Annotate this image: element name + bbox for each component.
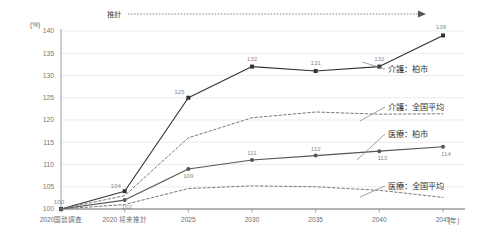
value-label-s1-p4: 112 [311,145,321,152]
y-tick-label-135: 135 [43,50,55,57]
y-tick-label-120: 120 [43,116,55,123]
y-tick-label-110: 110 [43,161,54,168]
y-tick-labels-group: 100105110115120125130135140 [43,27,55,212]
marker-s0-p3 [250,65,254,69]
x-tick-label-1: 2020 将来推計 [102,215,147,224]
y-tick-label-115: 115 [43,139,54,146]
marker-s0-p1 [123,189,127,193]
x-tick-label-3: 2030 [245,216,260,223]
value-label-s0-p0: 100 [54,198,65,205]
y-axis-unit-label: (%) [30,21,40,29]
chart-canvas: 100105110115120125130135140 2020国勢調査2020… [0,0,477,237]
value-label-s0-p3: 132 [247,55,258,62]
marker-s0-p2 [186,96,190,100]
y-tick-label-105: 105 [43,183,55,190]
marker-s1-p3 [250,158,254,162]
value-label-s1-p6: 114 [441,150,451,157]
value-label-s1-p2: 109 [183,172,194,179]
marker-s0-p6 [441,33,445,37]
value-label-s1-p1: 102 [122,203,133,210]
value-label-s0-p5: 132 [374,55,385,62]
marker-s1-p6 [441,145,445,149]
value-label-s0-p1: 104 [111,182,122,189]
series-label-0: 介護：柏市 [388,64,428,74]
marker-s1-p2 [186,167,190,171]
series-label-3: 医療：全国平均 [388,181,444,191]
line-chart: 100105110115120125130135140 2020国勢調査2020… [0,0,477,237]
y-tick-label-130: 130 [43,72,55,79]
y-tick-label-125: 125 [43,94,55,101]
value-label-s0-p4: 131 [311,59,322,66]
x-axis-unit-label: (年) [448,216,459,225]
annotation-label-suikei: 推計 [107,10,122,19]
x-tick-label-2: 2025 [181,216,196,223]
series-label-1: 医療：柏市 [388,129,428,139]
series-label-2: 介護：全国平均 [388,102,444,112]
x-tick-label-5: 2040 [372,216,387,223]
marker-s1-p1 [123,198,127,202]
value-label-s0-p6: 139 [436,23,447,30]
marker-s1-p5 [377,149,381,153]
x-tick-label-4: 2035 [308,216,323,223]
y-tick-label-140: 140 [43,27,55,34]
y-tick-label-100: 100 [43,205,55,212]
value-label-s1-p3: 111 [247,149,257,156]
value-label-s0-p2: 125 [174,88,185,95]
x-tick-label-0: 2020国勢調査 [40,215,83,224]
value-label-s1-p5: 113 [377,154,387,161]
chart-background [0,0,477,237]
marker-s0-p4 [314,69,318,73]
marker-s1-p4 [314,154,318,158]
